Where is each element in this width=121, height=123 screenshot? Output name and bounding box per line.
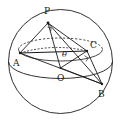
segment-PA bbox=[20, 23, 48, 53]
upper-circle-front-arc bbox=[19, 50, 103, 62]
sphere-diagram-figure: P A B C O θ bbox=[0, 0, 121, 123]
vertex-dot-a bbox=[19, 52, 21, 54]
vertex-dot-b bbox=[101, 83, 103, 85]
point-label-a: A bbox=[12, 58, 20, 68]
angle-label-theta: θ bbox=[62, 50, 67, 59]
vertex-dot-c bbox=[86, 50, 88, 52]
segment-PC bbox=[48, 23, 87, 51]
geometry-canvas: P A B C O θ bbox=[0, 0, 121, 123]
sphere-outline bbox=[9, 10, 113, 114]
vertex-dot-p bbox=[47, 22, 50, 25]
vertex-dot-o bbox=[60, 67, 62, 69]
point-label-b: B bbox=[98, 89, 105, 99]
point-label-p: P bbox=[44, 6, 50, 16]
segment-AC bbox=[20, 51, 87, 53]
point-label-o: O bbox=[57, 73, 64, 83]
point-label-c: C bbox=[90, 40, 97, 50]
